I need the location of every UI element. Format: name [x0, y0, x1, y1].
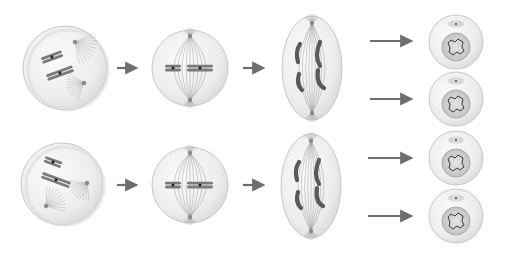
- centrosome-icon: [82, 81, 86, 85]
- cell-daughter-cell: [429, 131, 483, 185]
- centrosome-icon: [73, 40, 77, 44]
- cell-prophase: [21, 143, 104, 225]
- centrosome-icon: [188, 34, 192, 38]
- centrosome-icon: [85, 181, 89, 185]
- nucleus-icon: [442, 90, 470, 118]
- centrosome-icon: [454, 79, 457, 82]
- cell-metaphase: [152, 28, 228, 108]
- cell-prophase: [23, 26, 108, 110]
- diagram-canvas: [0, 0, 517, 262]
- centrosome-icon: [188, 98, 192, 102]
- centrosome-icon: [188, 215, 192, 219]
- cell-daughter-cell: [429, 15, 483, 69]
- cell-anaphase: [282, 14, 342, 122]
- centrosome-icon: [310, 111, 314, 115]
- nucleus-icon: [442, 149, 470, 177]
- row-1: [23, 14, 483, 126]
- centrosome-icon: [188, 151, 192, 155]
- nucleus-icon: [442, 207, 470, 235]
- cell-metaphase: [152, 145, 228, 225]
- centrosome-icon: [454, 196, 457, 199]
- mitosis-diagram: [0, 0, 517, 262]
- centrosome-icon: [309, 139, 313, 143]
- centrosome-icon: [310, 21, 314, 25]
- cell-anaphase: [281, 132, 341, 240]
- centrosome-icon: [309, 229, 313, 233]
- centrosome-icon: [44, 204, 48, 208]
- cell-daughter-cell: [429, 72, 483, 126]
- nucleus-icon: [442, 33, 470, 61]
- centrosome-icon: [454, 22, 457, 25]
- centrosome-icon: [454, 138, 457, 141]
- row-2: [21, 131, 483, 243]
- cell-daughter-cell: [429, 189, 483, 243]
